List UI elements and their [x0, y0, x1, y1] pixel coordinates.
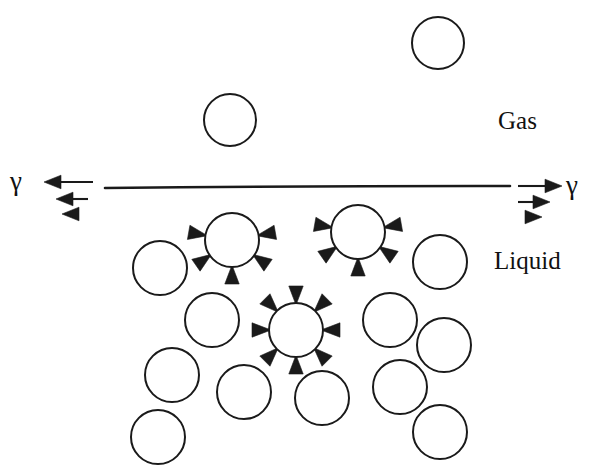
force-arrow-bulk-1-7-head	[314, 348, 333, 367]
force-arrow-surface-1-2-head	[192, 254, 212, 271]
molecule-liq-8	[217, 365, 271, 419]
molecule-liq-1	[133, 241, 187, 295]
molecule-liq-11	[413, 405, 467, 459]
gamma-label-right: γ	[566, 172, 578, 199]
molecule-circle-surface-1	[205, 213, 259, 267]
force-arrow-surface-2-3-head	[378, 246, 398, 263]
phase-label-liquid: Liquid	[494, 248, 561, 273]
molecule-liq-3	[185, 293, 239, 347]
molecule-circle-liq-1	[133, 241, 187, 295]
molecule-circle-liq-3	[185, 293, 239, 347]
molecule-liq-4	[363, 293, 417, 347]
molecule-circle-gas-2	[412, 17, 464, 69]
molecule-surface-2	[313, 205, 402, 276]
molecule-circle-liq-2	[413, 235, 467, 289]
molecule-circle-bulk-1	[269, 303, 323, 357]
force-arrow-surface-1-3-head	[252, 254, 272, 271]
molecule-bulk-1	[252, 286, 340, 374]
molecule-liq-5	[417, 318, 471, 372]
molecule-gas-1	[204, 94, 256, 146]
diagram-canvas	[0, 0, 600, 476]
molecule-circle-liq-6	[145, 348, 199, 402]
force-arrow-bulk-1-3-head	[260, 294, 279, 313]
interface-stroke	[105, 186, 510, 188]
molecule-circle-liq-10	[131, 410, 185, 464]
force-arrow-bulk-1-5-head	[260, 348, 279, 367]
tension-arrow-left-0-head	[44, 175, 61, 189]
molecule-liq-6	[145, 348, 199, 402]
molecule-liq-7	[373, 360, 427, 414]
molecule-circle-liq-8	[217, 365, 271, 419]
molecule-circle-liq-9	[295, 371, 349, 425]
molecule-circle-liq-5	[417, 318, 471, 372]
tension-arrow-cluster-right	[518, 179, 562, 224]
tension-arrow-cluster-left	[44, 175, 93, 221]
force-arrow-bulk-1-1-head	[314, 294, 333, 313]
molecule-liq-10	[131, 410, 185, 464]
molecule-circle-liq-4	[363, 293, 417, 347]
molecule-circle-liq-11	[413, 405, 467, 459]
molecule-gas-2	[412, 17, 464, 69]
molecule-circle-gas-1	[204, 94, 256, 146]
molecule-circle-liq-7	[373, 360, 427, 414]
tension-arrow-right-0-head	[545, 179, 562, 193]
phase-label-gas: Gas	[498, 108, 537, 133]
interface-line	[105, 186, 510, 188]
molecule-circle-surface-2	[331, 205, 385, 259]
molecule-surface-1	[187, 213, 276, 284]
surface-tension-figure: Gas Liquid γ γ	[0, 0, 600, 476]
gamma-label-left: γ	[10, 168, 22, 195]
tension-arrow-left-2-head	[62, 207, 79, 221]
tension-arrow-left-1-head	[56, 192, 73, 206]
tension-arrow-right-2-head	[525, 210, 542, 224]
molecule-liq-2	[413, 235, 467, 289]
tension-arrow-right-1-head	[533, 195, 550, 209]
force-arrow-surface-2-2-head	[318, 246, 338, 263]
molecule-liq-9	[295, 371, 349, 425]
